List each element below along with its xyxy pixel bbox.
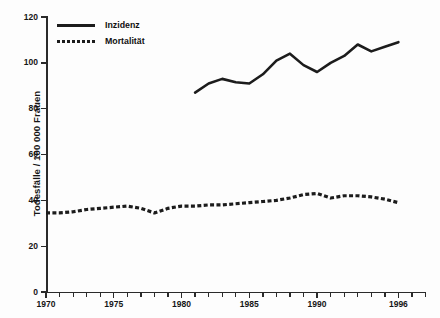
legend-swatch-solid-icon [57,19,95,31]
series-line-inzidenz [195,42,398,92]
legend-item-mortalitaet: Mortalität [57,34,145,48]
legend-label-mortalitaet: Mortalität [105,36,145,46]
chart-container: Todesfälle / 100 000 Frauen 020406080100… [0,0,440,318]
chart-legend: Inzidenz Mortalität [57,18,145,50]
legend-item-inzidenz: Inzidenz [57,18,145,32]
legend-swatch-dashed-icon [57,35,95,47]
series-line-mortalitt [46,193,398,212]
legend-label-inzidenz: Inzidenz [105,20,140,30]
